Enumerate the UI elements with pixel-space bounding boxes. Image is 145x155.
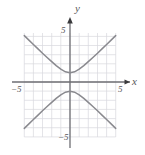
x-axis-label: x (132, 76, 137, 87)
x-axis-tick-label-minus5: −5 (11, 85, 22, 94)
x-axis-arrow (125, 79, 131, 84)
y-axis-tick-label-minus5: −5 (58, 133, 69, 142)
y-axis-label: y (75, 3, 80, 14)
graph-figure: y x 5 −5 −5 5 (0, 0, 145, 155)
x-axis (12, 79, 130, 84)
coordinate-plane-svg (0, 0, 145, 155)
y-axis-arrow (67, 17, 73, 24)
y-axis-tick-label-5: 5 (61, 26, 66, 35)
x-axis-tick-label-5: 5 (118, 85, 123, 94)
